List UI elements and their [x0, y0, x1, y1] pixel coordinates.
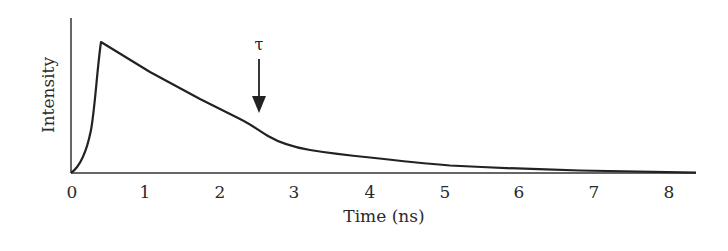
decay-curve — [71, 42, 696, 173]
y-axis-label: Intensity — [38, 57, 58, 133]
x-tick-6: 6 — [514, 182, 525, 202]
x-tick-1: 1 — [140, 182, 151, 202]
x-axis-label: Time (ns) — [343, 206, 424, 226]
decay-chart: τ 0 1 2 3 4 5 6 7 8 Time (ns) Intensity — [0, 0, 728, 251]
x-tick-2: 2 — [215, 182, 226, 202]
tau-label: τ — [255, 35, 264, 54]
tau-arrow-head-icon — [252, 96, 266, 113]
x-tick-4: 4 — [365, 182, 376, 202]
x-tick-0: 0 — [67, 182, 78, 202]
x-tick-8: 8 — [664, 182, 675, 202]
x-tick-3: 3 — [289, 182, 300, 202]
x-tick-7: 7 — [589, 182, 600, 202]
x-tick-5: 5 — [440, 182, 451, 202]
x-tick-labels: 0 1 2 3 4 5 6 7 8 — [67, 182, 675, 202]
